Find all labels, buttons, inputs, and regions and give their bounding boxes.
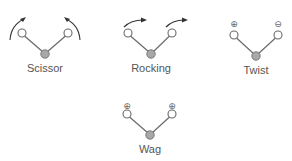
arrow-head-icon <box>182 18 188 23</box>
curved-arrow-icon <box>166 20 184 27</box>
vibration-modes-diagram: Scissor Rocking ⊕ ⊖ Twist <box>0 0 292 161</box>
outer-atom <box>64 29 72 37</box>
center-atom <box>252 52 260 60</box>
arrow-head-icon <box>141 18 147 23</box>
bond-left <box>131 36 150 52</box>
bond-right <box>47 36 66 52</box>
outer-atom <box>274 31 282 39</box>
bond-left <box>237 38 255 54</box>
mode-rocking: Rocking <box>124 18 188 75</box>
bond-left <box>130 117 149 133</box>
plus-icon: ⊕ <box>230 19 238 29</box>
outer-atom <box>230 31 238 39</box>
outer-atom <box>168 29 176 37</box>
outer-atom <box>18 29 26 37</box>
center-atom <box>41 50 49 58</box>
mode-twist: ⊕ ⊖ Twist <box>230 19 282 76</box>
outer-atom <box>124 29 132 37</box>
bond-left <box>25 36 44 52</box>
center-atom <box>147 50 155 58</box>
mode-label: Scissor <box>27 62 63 74</box>
center-atom <box>146 131 154 139</box>
curved-arrow-icon <box>124 20 143 27</box>
bond-right <box>258 38 276 54</box>
mode-wag: ⊕ ⊕ Wag <box>123 101 176 155</box>
bond-right <box>153 36 170 52</box>
mode-label: Wag <box>139 143 161 155</box>
outer-atom <box>168 110 176 118</box>
mode-label: Twist <box>243 64 268 76</box>
mode-label: Rocking <box>131 62 171 74</box>
outer-atom <box>123 110 131 118</box>
bond-right <box>152 117 170 133</box>
mode-scissor: Scissor <box>10 17 80 74</box>
minus-icon: ⊖ <box>274 19 282 29</box>
